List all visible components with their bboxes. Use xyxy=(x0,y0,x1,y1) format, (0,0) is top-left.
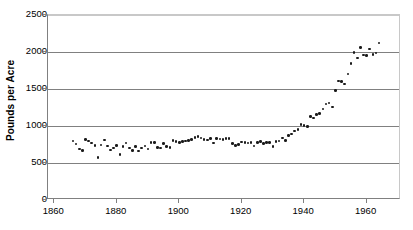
x-tick-mark-1880 xyxy=(116,199,117,203)
scatter-chart: Pounds per Acre 05001000150020002500 186… xyxy=(0,0,413,230)
x-tick-mark-1860 xyxy=(53,199,54,203)
x-tick-mark-1960 xyxy=(366,199,367,203)
x-tick-mark-1940 xyxy=(303,199,304,203)
x-tick-label-1960: 1960 xyxy=(344,205,388,216)
x-tick-label-1860: 1860 xyxy=(31,205,75,216)
x-axis: 186018801900192019401960 xyxy=(0,0,413,230)
x-tick-label-1920: 1920 xyxy=(219,205,263,216)
x-tick-label-1900: 1900 xyxy=(156,205,200,216)
x-tick-label-1880: 1880 xyxy=(94,205,138,216)
x-tick-mark-1920 xyxy=(241,199,242,203)
x-tick-mark-1900 xyxy=(178,199,179,203)
x-tick-label-1940: 1940 xyxy=(281,205,325,216)
